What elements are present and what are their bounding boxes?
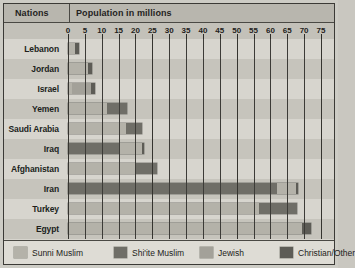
gridline [304,39,305,239]
gridline [186,39,187,239]
gridline [321,39,322,239]
bar-segment-sunni [68,203,259,214]
gridline [102,39,103,239]
gridline [254,39,255,239]
legend-label-jewish: Jewish [218,247,244,259]
bar-segment-shia [135,163,157,174]
gridline [152,39,153,239]
bar-segment-other [142,143,144,154]
row-label-egypt: Egypt [4,219,64,239]
legend-swatch-sunni [14,247,27,258]
bar-afghanistan [68,163,157,174]
gridline [85,39,86,239]
gridline [169,39,170,239]
bar-saudi-arabia [68,123,142,134]
row-label-turkey: Turkey [4,199,64,219]
bar-segment-other [91,83,95,94]
row-label-jordan: Jordan [4,59,64,79]
bar-segment-shia [126,123,142,134]
row-label-iran: Iran [4,179,64,199]
bar-segment-shia [259,203,298,214]
legend-label-sunni: Sunni Muslim [32,247,83,259]
gridline [270,39,271,239]
gridline [68,39,69,239]
row-label-israel: Israel [4,79,64,99]
row-label-yemen: Yemen [4,99,64,119]
legend-swatch-jewish [200,247,213,258]
bar-segment-other [75,43,79,54]
legend-swatch-other [280,247,293,258]
bar-segment-sunni [68,43,75,54]
row-label-saudi-arabia: Saudi Arabia [4,119,64,139]
x-axis-scale: 051015202530354045505560657075 [4,23,334,39]
bar-segment-shia [68,143,120,154]
gridline [287,39,288,239]
chart-header: Nations Population in millions [4,4,334,23]
gridline [203,39,204,239]
bar-segment-other [296,183,298,194]
gridline [237,39,238,239]
bar-segment-other [88,63,92,74]
row-label-afghanistan: Afghanistan [4,159,64,179]
bar-segment-sunni [120,143,142,154]
bar-egypt [68,223,311,234]
header-divider [69,4,70,22]
legend-swatch-shia [114,247,127,258]
legend-label-shia: Shi'ite Muslim [132,247,184,259]
chart-legend: Sunni MuslimShi'ite MuslimJewishChristia… [4,240,334,264]
bar-iraq [68,143,144,154]
header-population-label: Population in millions [76,4,172,22]
bar-lebanon [68,43,79,54]
plot-area: LebanonJordanIsraelYemenSaudi ArabiaIraq… [4,39,334,239]
row-label-iraq: Iraq [4,139,64,159]
gridline [220,39,221,239]
row-label-lebanon: Lebanon [4,39,64,59]
gridline [119,39,120,239]
header-nations-label: Nations [15,4,49,22]
bar-jordan [68,63,92,74]
bar-israel [68,83,95,94]
legend-label-other: Christian/Other [298,247,355,259]
bar-segment-jewish [72,83,90,94]
gridline [135,39,136,239]
bar-segment-shia [107,103,127,114]
bar-segment-shia [68,183,277,194]
bar-segment-sunni [68,123,126,134]
